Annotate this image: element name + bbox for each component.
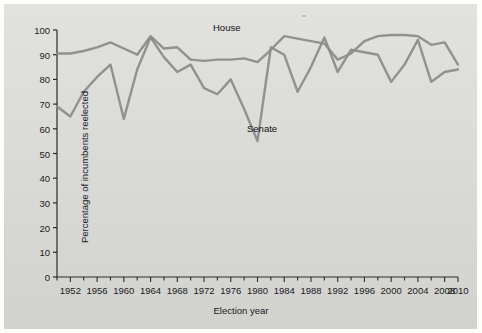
x-axis-tick-label: 1968 — [167, 285, 188, 296]
y-axis-title: Percentage of incumbents reelected — [79, 90, 90, 242]
y-axis-tick-label: 50 — [18, 148, 50, 159]
x-axis-tick-label: 2000 — [381, 285, 402, 296]
y-axis-tick-label: 90 — [18, 49, 50, 60]
y-axis-tick-label: 10 — [18, 247, 50, 258]
axis-ticks — [53, 30, 458, 282]
series-line-house — [57, 35, 458, 65]
y-axis-tick-label: 30 — [18, 197, 50, 208]
scan-speck — [302, 15, 306, 17]
axes — [57, 30, 458, 277]
y-axis-tick-label: 0 — [18, 272, 50, 283]
series-label-senate: Senate — [247, 123, 277, 134]
x-axis-title: Election year — [0, 305, 482, 316]
plot-area — [0, 0, 482, 333]
y-axis-tick-label: 40 — [18, 173, 50, 184]
chart-figure: 0102030405060708090100 19521956196019641… — [0, 0, 482, 333]
x-axis-tick-label: 1988 — [300, 285, 321, 296]
x-axis-tick-label: 1972 — [193, 285, 214, 296]
x-axis-tick-label: 1964 — [140, 285, 161, 296]
x-axis-tick-label: 1960 — [113, 285, 134, 296]
x-axis-tick-label: 1956 — [87, 285, 108, 296]
y-axis-tick-label: 20 — [18, 222, 50, 233]
y-axis-tick-label: 60 — [18, 123, 50, 134]
x-axis-tick-label: 1984 — [274, 285, 295, 296]
x-axis-tick-label: 2004 — [407, 285, 428, 296]
x-axis-tick-label: 1952 — [60, 285, 81, 296]
y-axis-tick-label: 80 — [18, 74, 50, 85]
series-label-house: House — [213, 22, 240, 33]
x-axis-tick-label: 1996 — [354, 285, 375, 296]
x-axis-tick-label: 2010 — [447, 285, 468, 296]
x-axis-tick-label: 1976 — [220, 285, 241, 296]
x-axis-tick-label: 1980 — [247, 285, 268, 296]
x-axis-tick-label: 1992 — [327, 285, 348, 296]
y-axis-tick-label: 70 — [18, 99, 50, 110]
y-axis-tick-label: 100 — [18, 25, 50, 36]
